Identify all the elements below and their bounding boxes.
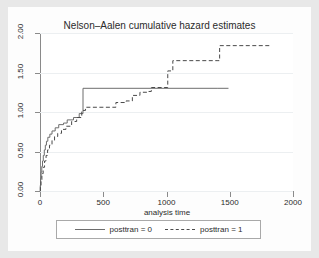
graph-region: Nelson–Aalen cumulative hazard estimates… (8, 7, 311, 251)
legend-line-dashed-icon (165, 226, 195, 233)
chart-figure: Nelson–Aalen cumulative hazard estimates… (0, 0, 319, 258)
legend-label: posttran = 1 (200, 225, 242, 234)
legend-entry-posttran-1: posttran = 1 (165, 225, 242, 234)
x-axis-title: analysis time (40, 208, 294, 217)
series-line (40, 46, 271, 191)
chart-legend: posttran = 0 posttran = 1 (56, 220, 261, 239)
series-line (40, 88, 228, 191)
legend-entry-posttran-0: posttran = 0 (75, 225, 152, 234)
legend-line-solid-icon (75, 226, 105, 233)
legend-label: posttran = 0 (110, 225, 152, 234)
